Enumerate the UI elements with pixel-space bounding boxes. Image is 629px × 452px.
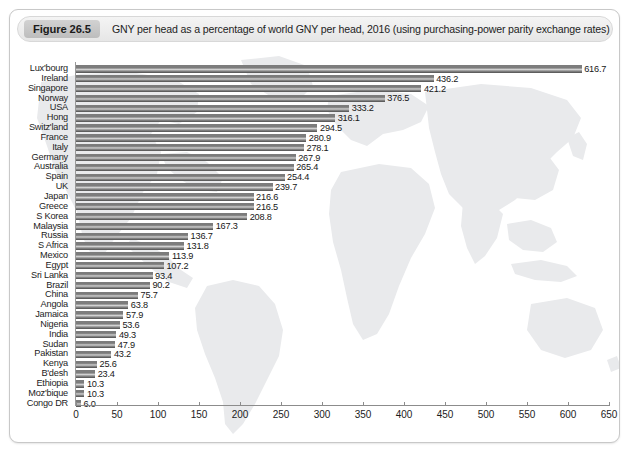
bar-value-label: 278.1 <box>307 143 329 153</box>
bar-value-label: 616.7 <box>584 64 606 74</box>
bar <box>76 341 115 348</box>
bar-row: Hong316.1 <box>11 113 620 123</box>
bar <box>76 65 582 72</box>
bar-row: S Africa131.8 <box>11 241 620 251</box>
x-axis-tick-label: 350 <box>355 409 371 420</box>
bar-row: Greece216.5 <box>11 202 620 212</box>
x-axis-tick <box>445 402 446 406</box>
bar-and-value: 376.5 <box>76 94 409 104</box>
bar-and-value: 107.2 <box>76 261 188 271</box>
bar-value-label: 208.8 <box>250 212 272 222</box>
bar-row: Sri Lanka93.4 <box>11 271 620 281</box>
bar <box>76 331 116 338</box>
bar-and-value: 131.8 <box>76 241 209 251</box>
figure-number-badge: Figure 26.5 <box>24 20 100 38</box>
bar <box>76 223 213 230</box>
bar <box>76 282 150 289</box>
bar-row: Italy278.1 <box>11 143 620 153</box>
chart-plot-area: Lux'bourg616.7Ireland436.2Singapore421.2… <box>11 48 620 443</box>
bar-and-value: 75.7 <box>76 290 158 300</box>
bar-value-label: 113.9 <box>172 251 193 261</box>
bar-value-label: 239.7 <box>275 182 297 192</box>
bar-value-label: 436.2 <box>436 74 458 84</box>
bar-row: UK239.7 <box>11 182 620 192</box>
x-axis-tick-label: 50 <box>112 409 123 420</box>
bar-value-label: 254.4 <box>287 172 309 182</box>
bar-row: Japan216.6 <box>11 192 620 202</box>
bar-value-label: 75.7 <box>141 290 158 300</box>
bar-value-label: 294.5 <box>320 123 342 133</box>
bar <box>76 144 304 151</box>
bar-value-label: 63.8 <box>131 300 148 310</box>
x-axis-tick-label: 150 <box>191 409 207 420</box>
bar-value-label: 47.9 <box>118 340 135 350</box>
bar <box>76 85 421 92</box>
bar-value-label: 421.2 <box>424 84 446 94</box>
bar-row: Singapore421.2 <box>11 84 620 94</box>
bar-value-label: 131.8 <box>187 241 209 251</box>
x-axis-tick <box>76 402 77 406</box>
bar-row: China75.7 <box>11 290 620 300</box>
bar-and-value: 53.6 <box>76 320 140 330</box>
bar-row: Spain254.4 <box>11 172 620 182</box>
bar-row: Russia136.7 <box>11 231 620 241</box>
bar-and-value: 280.9 <box>76 133 331 143</box>
bar <box>76 301 128 308</box>
x-axis-tick-label: 400 <box>396 409 412 420</box>
bar-and-value: 10.3 <box>76 379 104 389</box>
x-axis-tick <box>158 402 159 406</box>
y-axis-line <box>75 62 76 406</box>
bar-value-label: 316.1 <box>338 113 360 123</box>
x-axis-tick-label: 450 <box>437 409 453 420</box>
bar <box>76 105 349 112</box>
figure-caption: GNY per head as a percentage of world GN… <box>112 23 610 35</box>
bar-row: Mexico113.9 <box>11 251 620 261</box>
bar <box>76 233 188 240</box>
bar <box>76 183 273 190</box>
bar-row: Kenya25.6 <box>11 359 620 369</box>
bar-value-label: 265.4 <box>296 162 318 172</box>
bar-and-value: 421.2 <box>76 84 446 94</box>
bar <box>76 272 153 279</box>
bar-row: Norway376.5 <box>11 94 620 104</box>
bar <box>76 390 84 397</box>
bar-and-value: 136.7 <box>76 231 213 241</box>
bar <box>76 351 111 358</box>
bar <box>76 154 296 161</box>
bar-row: Jamaica57.9 <box>11 310 620 320</box>
bar-and-value: 23.4 <box>76 369 115 379</box>
bar-value-label: 57.9 <box>126 310 143 320</box>
bar <box>76 370 95 377</box>
bar <box>76 75 434 82</box>
bar <box>76 252 169 259</box>
bar-row: Brazil90.2 <box>11 281 620 291</box>
bar-row: Australia265.4 <box>11 162 620 172</box>
bar-value-label: 93.4 <box>155 271 172 281</box>
bar <box>76 174 285 181</box>
x-axis-tick <box>199 402 200 406</box>
bar-and-value: 49.3 <box>76 330 136 340</box>
bar-value-label: 53.6 <box>122 320 139 330</box>
x-axis-tick-label: 250 <box>273 409 289 420</box>
x-axis-tick-label: 550 <box>519 409 535 420</box>
bar-and-value: 47.9 <box>76 340 135 350</box>
bar-and-value: 316.1 <box>76 113 360 123</box>
bar-and-value: 90.2 <box>76 281 170 291</box>
x-axis-tick <box>281 402 282 406</box>
bar-row: India49.3 <box>11 330 620 340</box>
bar-value-label: 216.5 <box>256 202 278 212</box>
x-axis-tick-label: 300 <box>314 409 330 420</box>
bar-and-value: 265.4 <box>76 162 318 172</box>
x-axis-tick <box>609 402 610 406</box>
bar-and-value: 93.4 <box>76 271 172 281</box>
bar-value-label: 267.9 <box>298 153 320 163</box>
bar-and-value: 113.9 <box>76 251 193 261</box>
bar <box>76 213 247 220</box>
bar-and-value: 294.5 <box>76 123 342 133</box>
bar-and-value: 216.5 <box>76 202 278 212</box>
x-axis-tick <box>117 402 118 406</box>
x-axis-line <box>75 405 609 406</box>
bar <box>76 262 164 269</box>
x-axis-tick-label: 600 <box>560 409 576 420</box>
x-axis-tick-label: 650 <box>601 409 617 420</box>
